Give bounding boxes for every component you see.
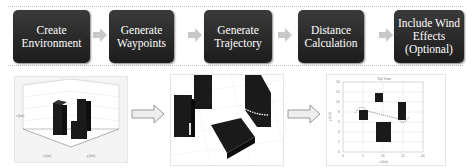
svg-text:x (km): x (km) bbox=[43, 154, 51, 158]
chevron-right-icon bbox=[278, 28, 292, 42]
svg-text:14: 14 bbox=[336, 80, 340, 84]
svg-text:12: 12 bbox=[336, 90, 340, 94]
step-generate-waypoints: Generate Waypoints bbox=[109, 10, 174, 63]
svg-text:z (km): z (km) bbox=[16, 114, 24, 118]
svg-text:y (km): y (km) bbox=[87, 154, 95, 158]
environment-3d-plot: z (km) x (km) y (km) bbox=[14, 76, 128, 163]
svg-text:20: 20 bbox=[421, 154, 425, 158]
svg-text:5: 5 bbox=[362, 154, 364, 158]
chevron-right-icon bbox=[93, 28, 107, 42]
svg-text:10: 10 bbox=[381, 154, 385, 158]
svg-text:0: 0 bbox=[338, 150, 340, 154]
chevron-right-icon bbox=[188, 28, 202, 42]
svg-text:10: 10 bbox=[336, 100, 340, 104]
svg-text:15: 15 bbox=[401, 154, 405, 158]
svg-text:8: 8 bbox=[338, 110, 340, 114]
svg-text:0: 0 bbox=[342, 154, 344, 158]
chevron-right-icon bbox=[379, 28, 393, 42]
step-include-wind-effects: Include Wind Effects (Optional) bbox=[394, 10, 464, 63]
arrow-right-icon bbox=[287, 104, 321, 124]
arrow-right-icon bbox=[131, 104, 165, 124]
top-view-plot: Top View 05101520 0246 8101214 x (km) y … bbox=[326, 74, 446, 166]
svg-text:2: 2 bbox=[338, 140, 340, 144]
svg-text:6: 6 bbox=[338, 120, 340, 124]
trajectory-3d-plot bbox=[170, 74, 284, 166]
svg-text:4: 4 bbox=[338, 130, 340, 134]
step-generate-trajectory: Generate Trajectory bbox=[204, 10, 272, 63]
step-create-environment: Create Environment bbox=[13, 10, 90, 63]
svg-text:y (km): y (km) bbox=[328, 112, 332, 121]
svg-text:x (km): x (km) bbox=[379, 160, 388, 164]
svg-text:Top View: Top View bbox=[377, 77, 392, 81]
step-distance-calculation: Distance Calculation bbox=[298, 10, 364, 63]
